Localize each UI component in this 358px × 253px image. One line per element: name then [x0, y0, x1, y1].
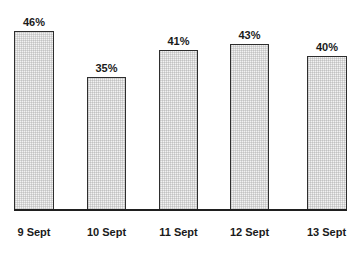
plot-area: 46% 35% 41% 43% 40%	[0, 0, 358, 253]
bar-12-sept[interactable]	[230, 44, 269, 210]
bar-13-sept[interactable]	[307, 56, 347, 210]
bar-value-label: 46%	[14, 16, 54, 28]
x-tick-label-11-sept: 11 Sept	[147, 226, 210, 238]
bar-value-label: 35%	[87, 62, 126, 74]
bar-value-label: 40%	[307, 41, 347, 53]
bar-value-label: 43%	[230, 29, 269, 41]
x-tick-label-12-sept: 12 Sept	[218, 226, 281, 238]
bar-value-label: 41%	[159, 35, 198, 47]
bar-9-sept[interactable]	[14, 31, 54, 210]
bar-11-sept[interactable]	[159, 50, 198, 210]
x-tick-label-10-sept: 10 Sept	[75, 226, 138, 238]
x-tick-label-9-sept: 9 Sept	[4, 226, 64, 238]
bar-chart: 46% 35% 41% 43% 40% 9 Sept 10 Sept 11 Se…	[0, 0, 358, 253]
x-tick-label-13-sept: 13 Sept	[295, 226, 358, 238]
bar-10-sept[interactable]	[87, 77, 126, 210]
x-axis-line	[14, 209, 347, 211]
